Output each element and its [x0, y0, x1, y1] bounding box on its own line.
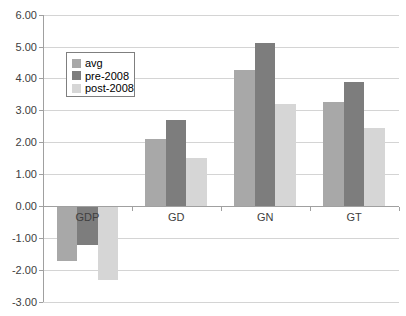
legend-label-pre-2008: pre-2008	[85, 70, 129, 82]
bar-pre-2008-GT	[344, 82, 365, 206]
legend-label-avg: avg	[85, 57, 103, 69]
category-label-GN: GN	[230, 211, 300, 223]
y-axis-label: 5.00	[0, 41, 37, 53]
bar-pre-2008-GN	[255, 43, 276, 206]
legend-label-post-2008: post-2008	[85, 82, 134, 94]
y-axis-label: 1.00	[0, 168, 37, 180]
x-axis-tick	[221, 207, 222, 211]
bar-chart: 6.005.004.003.002.001.000.00-1.00-2.00-3…	[0, 0, 406, 316]
bar-post-2008-GD	[186, 158, 207, 206]
y-axis-label: 3.00	[0, 104, 37, 116]
bar-avg-GN	[234, 70, 255, 206]
legend-entry-pre-2008: pre-2008	[72, 70, 134, 82]
x-axis-tick	[310, 207, 311, 211]
bar-avg-GD	[145, 139, 166, 206]
y-axis-label: -2.00	[0, 264, 37, 276]
category-label-GT: GT	[319, 211, 389, 223]
bar-post-2008-GT	[364, 128, 385, 206]
legend-entry-avg: avg	[72, 57, 134, 69]
y-axis-label: -1.00	[0, 232, 37, 244]
gridline	[43, 270, 399, 271]
bar-pre-2008-GD	[166, 120, 187, 206]
bar-avg-GT	[323, 102, 344, 206]
y-axis-label: -3.00	[0, 296, 37, 308]
gridline	[43, 47, 399, 48]
legend-entry-post-2008: post-2008	[72, 82, 134, 94]
legend-swatch-post-2008	[72, 84, 81, 93]
category-label-GD: GD	[141, 211, 211, 223]
y-axis-label: 6.00	[0, 9, 37, 21]
x-axis-tick	[132, 207, 133, 211]
legend-swatch-avg	[72, 59, 81, 68]
y-axis-tick	[39, 302, 43, 303]
category-label-GDP: GDP	[52, 211, 122, 223]
y-axis-line	[43, 15, 44, 302]
gridline	[43, 15, 399, 16]
x-axis-tick	[399, 207, 400, 211]
y-axis-label: 4.00	[0, 72, 37, 84]
legend: avg pre-2008 post-2008	[66, 52, 135, 97]
gridline	[43, 302, 399, 303]
y-axis-label: 2.00	[0, 136, 37, 148]
legend-swatch-pre-2008	[72, 71, 81, 80]
y-axis-label: 0.00	[0, 200, 37, 212]
bar-post-2008-GN	[275, 104, 296, 206]
